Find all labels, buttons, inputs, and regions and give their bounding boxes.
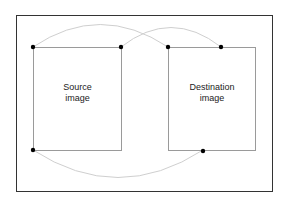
connector-top-left	[33, 25, 168, 48]
control-point-destination-bottom-inner	[201, 149, 205, 153]
connector-bottom	[33, 150, 203, 178]
control-point-source-bottom-left	[31, 148, 35, 152]
control-point-destination-top-left	[166, 45, 170, 49]
connector-layer	[0, 0, 286, 203]
control-point-source-top-left	[31, 45, 35, 49]
control-point-destination-top-inner	[219, 45, 223, 49]
control-point-source-top-right	[119, 45, 123, 49]
